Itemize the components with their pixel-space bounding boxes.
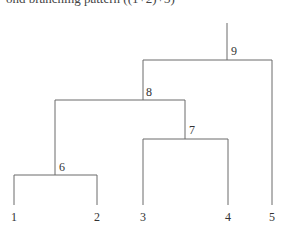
leaf-label-4: 4 xyxy=(225,210,231,224)
node-label-9: 9 xyxy=(231,44,237,58)
leaf-label-3: 3 xyxy=(140,210,146,224)
leaf-label-5: 5 xyxy=(269,210,275,224)
tree-diagram: 9 8 7 6 1 2 3 4 5 xyxy=(0,0,286,230)
node-label-6: 6 xyxy=(59,160,65,174)
leaf-label-1: 1 xyxy=(11,210,17,224)
node-label-8: 8 xyxy=(146,85,152,99)
node-label-7: 7 xyxy=(189,123,195,137)
leaf-label-2: 2 xyxy=(94,210,100,224)
